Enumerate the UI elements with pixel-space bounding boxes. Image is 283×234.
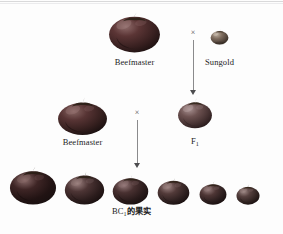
parental-right-label: Sungold [205, 58, 234, 67]
bc1-fruit-3 [112, 174, 149, 205]
bc1-label-cjk: 的果实 [127, 206, 151, 216]
bc1-fruit-5 [199, 181, 227, 205]
bc1-label: BC1的果实 [112, 207, 151, 216]
bc1-fruit-4 [157, 177, 190, 205]
arrow-head [190, 90, 196, 95]
scan-artifact-line [0, 1, 283, 2]
f1-fruit [177, 98, 213, 129]
tomato-backcross-figure: Beefmaster Sungold × [0, 0, 283, 234]
arrow-shaft [137, 120, 138, 164]
arrow-head [134, 163, 140, 168]
parental-cross-symbol: × [191, 29, 196, 37]
beefmaster-fruit-medium [57, 97, 108, 135]
arrow-shaft [193, 40, 194, 91]
bc1-fruit-2 [64, 171, 105, 205]
sungold-fruit-small [210, 29, 229, 45]
backcross-cross-symbol: × [135, 109, 140, 117]
f1-label-subscript: 1 [196, 140, 199, 147]
beefmaster-fruit-large [108, 11, 161, 53]
backcross-to-bc1-arrow [133, 120, 141, 168]
bc1-fruit-1 [9, 166, 57, 205]
bc1-fruit-6 [236, 184, 260, 205]
f1-label: F1 [191, 137, 199, 146]
bc1-label-text: BC [112, 206, 124, 216]
parental-to-f1-arrow [189, 40, 197, 95]
parental-left-label: Beefmaster [115, 58, 155, 67]
bc1-label-subscript: 1 [124, 210, 127, 217]
scan-artifact-line-secondary [0, 3, 283, 4]
backcross-left-label: Beefmaster [63, 138, 103, 147]
